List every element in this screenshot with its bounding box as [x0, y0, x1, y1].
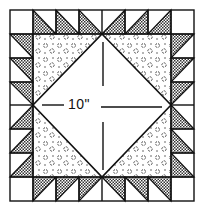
quilt-block-svg [0, 0, 201, 208]
dimension-label: 10" [68, 96, 90, 112]
